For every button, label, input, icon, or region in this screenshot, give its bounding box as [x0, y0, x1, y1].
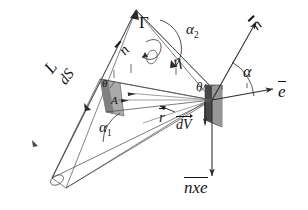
alpha2-label: α2 — [186, 22, 199, 40]
beam-tick-marks — [131, 64, 176, 75]
beam-left-arrow — [32, 140, 38, 147]
alpha2-subscript: 2 — [194, 30, 199, 40]
alpha1-subscript: 1 — [107, 128, 112, 138]
alpha1-symbol: α — [99, 119, 107, 135]
dV-label: dV — [176, 118, 192, 132]
rotation-center-ellipse — [145, 49, 159, 66]
theta-center-label: θ — [196, 80, 202, 93]
theta-inner-label: θ — [102, 78, 107, 89]
gamma-label: Γ — [139, 14, 149, 31]
n-vector-arrow — [212, 22, 256, 100]
r-vector-label: r — [159, 110, 165, 125]
n-cross-e-label: nxe — [184, 179, 208, 196]
shaded-parallelogram-center — [205, 85, 222, 127]
r-vector-glyph: r — [159, 110, 165, 125]
figure-root: Γ α2 α α1 θ θ η n n e L dS A r dV nxe — [0, 0, 308, 210]
A-label: A — [111, 95, 118, 106]
e-vector-label: e — [278, 83, 286, 100]
e-vector-glyph: e — [278, 83, 286, 100]
alpha-label: α — [243, 64, 251, 80]
ray-arrowheads — [121, 93, 136, 103]
alpha1-label: α1 — [99, 120, 112, 138]
beam-base-ellipse — [49, 173, 66, 188]
dV-vector-glyph: dV — [176, 118, 192, 132]
n-cross-e-glyph: nxe — [184, 179, 208, 196]
figure-drawing — [0, 0, 308, 210]
alpha2-symbol: α — [186, 21, 194, 37]
